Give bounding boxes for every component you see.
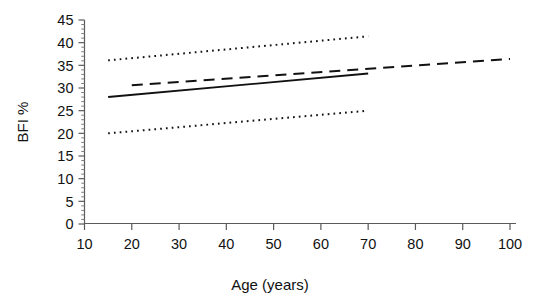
chart-figure: 051015202530354045 102030405060708090100… (0, 0, 552, 302)
x-axis-tick-label: 10 (76, 236, 92, 252)
x-axis-tick-label: 20 (124, 236, 140, 252)
x-axis-tick-label: 60 (313, 236, 329, 252)
y-axis-tick-label: 45 (57, 12, 73, 28)
x-axis-tick-label: 50 (266, 236, 282, 252)
bfi-vs-age-scatter-regression-chart: 051015202530354045 102030405060708090100… (0, 0, 552, 302)
x-axis-tick-label: 30 (171, 236, 187, 252)
x-axis-tick-label: 70 (360, 236, 376, 252)
x-axis-tick-label: 40 (218, 236, 234, 252)
y-axis-tick-label: 0 (65, 216, 73, 232)
y-axis-tick-label: 5 (65, 194, 73, 210)
y-axis-tick-label: 20 (57, 126, 73, 142)
y-axis-tick-label: 30 (57, 80, 73, 96)
x-axis-tick-label: 100 (498, 236, 522, 252)
y-axis-tick-label: 10 (57, 171, 73, 187)
x-axis-tick-label: 90 (455, 236, 471, 252)
x-axis-tick-label: 80 (407, 236, 423, 252)
y-axis-tick-label: 35 (57, 58, 73, 74)
y-axis-tick-label: 40 (57, 35, 73, 51)
y-axis-title: BFI % (14, 102, 31, 143)
y-axis-tick-label: 25 (57, 103, 73, 119)
x-axis-title: Age (years) (231, 276, 309, 293)
y-axis-tick-label: 15 (57, 148, 73, 164)
